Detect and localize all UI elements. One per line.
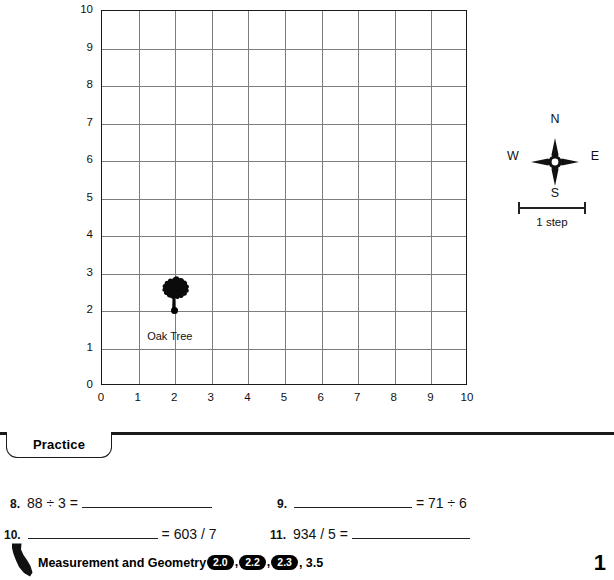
compass-east-label: E xyxy=(587,149,603,163)
answer-blank[interactable] xyxy=(28,524,158,539)
gridline-vertical xyxy=(248,11,249,384)
y-tick-label: 8 xyxy=(71,78,93,90)
gridline-vertical xyxy=(322,11,323,384)
problem-expression: 934 / 5 = xyxy=(293,526,352,542)
x-tick-label: 10 xyxy=(456,391,478,403)
standard-badge: 2.0 xyxy=(207,555,234,570)
page-number: 1 xyxy=(594,550,606,576)
problem-number: 11. xyxy=(270,528,286,542)
x-tick-label: 3 xyxy=(200,391,222,403)
y-tick-label: 5 xyxy=(71,191,93,203)
x-tick-label: 6 xyxy=(310,391,332,403)
y-tick-label: 4 xyxy=(71,228,93,240)
badge-separator: , xyxy=(235,555,238,569)
practice-problem: 8.88 ÷ 3 = xyxy=(10,493,212,511)
problem-number: 9. xyxy=(277,497,287,511)
oak-tree-point-marker xyxy=(171,307,178,314)
page-footer: Measurement and Geometry 2.0,2.2,2.3, 3.… xyxy=(0,546,614,580)
y-tick-label: 3 xyxy=(71,266,93,278)
gridline-horizontal xyxy=(102,124,466,125)
gridline-horizontal xyxy=(102,236,466,237)
x-tick-label: 1 xyxy=(127,391,149,403)
answer-blank[interactable] xyxy=(294,493,412,508)
problem-expression: 88 ÷ 3 = xyxy=(27,495,82,511)
gridline-vertical xyxy=(431,11,432,384)
scale-label: 1 step xyxy=(510,216,594,228)
gridline-vertical xyxy=(212,11,213,384)
gridline-horizontal xyxy=(102,349,466,350)
california-state-icon xyxy=(8,542,38,580)
worksheet-page: 012345678910 012345678910 Oak Tree xyxy=(0,0,614,580)
practice-section-tab: Practice xyxy=(6,432,112,458)
standard-badge: 2.3 xyxy=(271,555,298,570)
coordinate-grid xyxy=(101,10,467,385)
coordinate-grid-region: 012345678910 012345678910 Oak Tree xyxy=(0,0,614,415)
gridline-horizontal xyxy=(102,49,466,50)
y-tick-label: 0 xyxy=(71,378,93,390)
practice-problem: 10. = 603 / 7 xyxy=(4,524,216,542)
badge-separator: , xyxy=(267,555,270,569)
standards-prefix: Measurement and Geometry xyxy=(38,556,206,570)
gridline-vertical xyxy=(139,11,140,384)
y-tick-label: 7 xyxy=(71,116,93,128)
y-tick-label: 10 xyxy=(71,3,93,15)
y-tick-label: 9 xyxy=(71,41,93,53)
standards-badges: 2.0,2.2,2.3 xyxy=(206,555,299,570)
x-tick-label: 9 xyxy=(419,391,441,403)
problem-expression: = 71 ÷ 6 xyxy=(412,495,467,511)
standards-suffix: , 3.5 xyxy=(299,556,323,570)
oak-tree-label: Oak Tree xyxy=(147,330,192,342)
gridline-vertical xyxy=(175,11,176,384)
compass-north-label: N xyxy=(547,112,563,126)
y-tick-label: 2 xyxy=(71,303,93,315)
gridline-vertical xyxy=(358,11,359,384)
standards-line: Measurement and Geometry 2.0,2.2,2.3, 3.… xyxy=(38,555,323,570)
gridline-horizontal xyxy=(102,86,466,87)
answer-blank[interactable] xyxy=(352,524,470,539)
scale-bar-icon xyxy=(518,202,586,214)
practice-problem: 9. = 71 ÷ 6 xyxy=(277,493,467,511)
problem-number: 10. xyxy=(4,528,21,542)
x-tick-label: 5 xyxy=(273,391,295,403)
standard-badge: 2.2 xyxy=(239,555,266,570)
map-scale: 1 step xyxy=(510,202,600,228)
problem-number: 8. xyxy=(10,497,20,511)
x-tick-label: 8 xyxy=(383,391,405,403)
x-tick-label: 0 xyxy=(90,391,112,403)
compass-star-icon xyxy=(531,138,579,190)
practice-tab-label: Practice xyxy=(33,437,85,452)
x-tick-label: 7 xyxy=(346,391,368,403)
problem-expression: = 603 / 7 xyxy=(158,526,217,542)
gridline-vertical xyxy=(285,11,286,384)
x-tick-label: 4 xyxy=(236,391,258,403)
gridline-horizontal xyxy=(102,199,466,200)
gridline-horizontal xyxy=(102,161,466,162)
gridline-vertical xyxy=(395,11,396,384)
y-tick-label: 6 xyxy=(71,153,93,165)
y-tick-label: 1 xyxy=(71,341,93,353)
answer-blank[interactable] xyxy=(82,493,212,508)
practice-problem: 11.934 / 5 = xyxy=(270,524,470,542)
compass-west-label: W xyxy=(505,149,521,163)
x-tick-label: 2 xyxy=(163,391,185,403)
